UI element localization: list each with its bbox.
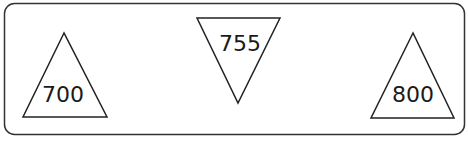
triangle-diagram: 700 755 800 (0, 0, 468, 142)
triangle-right-value: 800 (392, 82, 434, 107)
triangle-middle-value: 755 (219, 31, 261, 56)
triangle-left-value: 700 (42, 82, 84, 107)
